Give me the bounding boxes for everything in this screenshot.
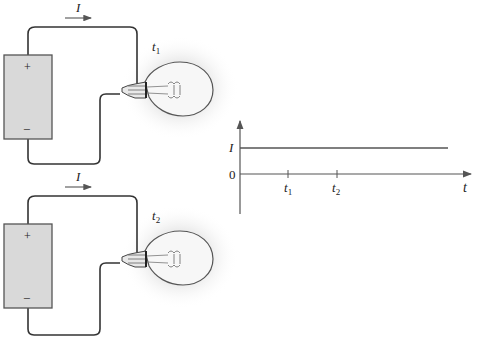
current-time-graph: I 0 t1 t2 t — [228, 121, 471, 214]
current-label: I — [75, 169, 81, 184]
battery-plus: + — [24, 229, 31, 243]
dc-current-diagram: I + − t1 I + − — [0, 0, 478, 346]
tick-label-t2: t2 — [332, 180, 340, 197]
tick-label-t1: t1 — [284, 180, 292, 197]
battery-plus: + — [24, 60, 31, 74]
circuit-t1: I + − t1 — [4, 0, 238, 164]
y-label-I: I — [228, 140, 234, 155]
current-label: I — [75, 0, 81, 15]
battery-minus: − — [23, 122, 30, 137]
y-label-zero: 0 — [229, 167, 236, 182]
circuit-t2: I + − t2 — [4, 169, 238, 335]
battery-minus: − — [23, 291, 30, 306]
x-axis-label: t — [463, 180, 468, 195]
